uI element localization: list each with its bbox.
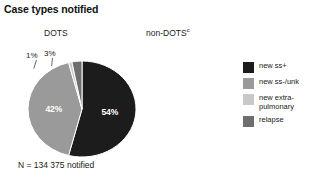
legend: new ss+new ss-/unknew extra-pulmonaryrel…: [243, 62, 319, 132]
legend-item-label: new extra-pulmonary: [259, 94, 319, 111]
legend-item[interactable]: new extra-pulmonary: [243, 94, 319, 111]
pie-svg: 54%42%: [28, 61, 136, 157]
callout-label-relapse: 3%: [44, 49, 56, 58]
dots-total-caption: N = 134 375 notified: [18, 160, 94, 170]
legend-item-label: new ss-/unk: [259, 78, 299, 87]
legend-item[interactable]: relapse: [243, 116, 319, 127]
dots-pie-chart: 54%42%: [28, 61, 136, 157]
pie-slice-group: [28, 61, 136, 157]
pie-slice-value-label: 42%: [45, 104, 62, 114]
column-header-non-dots-text: non-DOTS: [146, 28, 187, 38]
legend-item[interactable]: new ss-/unk: [243, 78, 319, 89]
legend-swatch-icon: [243, 62, 254, 73]
pie-slice-value-label: 54%: [101, 107, 118, 117]
legend-item-label: relapse: [259, 116, 284, 125]
footnote-marker-c: c: [187, 27, 190, 33]
legend-swatch-icon: [243, 94, 254, 105]
column-header-non-dots: non-DOTSc: [146, 28, 190, 38]
column-header-dots: DOTS: [44, 28, 68, 38]
page-title: Case types notified: [4, 3, 98, 15]
legend-item[interactable]: new ss+: [243, 62, 319, 73]
legend-item-label: new ss+: [259, 62, 287, 71]
legend-swatch-icon: [243, 78, 254, 89]
legend-swatch-icon: [243, 116, 254, 127]
callout-label-extra-pulmonary: 1%: [26, 51, 38, 60]
